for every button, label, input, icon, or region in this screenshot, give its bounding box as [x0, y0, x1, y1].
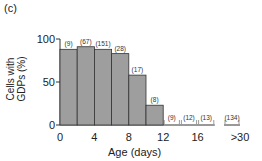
n-label: (8) [151, 96, 159, 104]
bar [77, 47, 94, 125]
y-tick-label: 100 [37, 33, 55, 45]
x-tick-label: >30 [231, 131, 250, 143]
bar [60, 49, 77, 125]
n-label: (9) [65, 40, 73, 48]
x-tick-label: 16 [191, 131, 203, 143]
n-label: (151) [95, 40, 110, 48]
n-label: (9) [168, 114, 176, 122]
n-label: (17) [132, 66, 144, 74]
y-tick-label: 0 [49, 119, 55, 131]
n-label: (28) [114, 45, 126, 53]
n-label: (12) [183, 114, 195, 122]
plot-area: 050100(9)(67)(151)(28)(17)(8)(9)(12)(13)… [37, 33, 250, 143]
n-label: (13) [200, 114, 212, 122]
bar [146, 105, 163, 125]
x-tick-label: 12 [157, 131, 169, 143]
x-tick-label: 0 [57, 131, 63, 143]
n-label: (134) [224, 114, 239, 122]
bar [94, 49, 111, 125]
y-tick-label: 50 [43, 76, 55, 88]
bar-chart: 050100(9)(67)(151)(28)(17)(8)(9)(12)(13)… [0, 0, 262, 161]
n-label: (67) [80, 38, 92, 46]
x-tick-label: 4 [91, 131, 97, 143]
bar [129, 75, 146, 125]
bar [112, 54, 129, 125]
x-tick-label: 8 [126, 131, 132, 143]
